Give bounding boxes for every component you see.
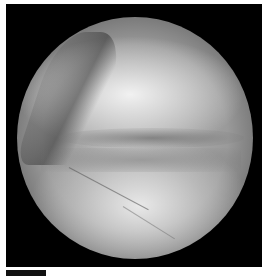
scale-bar: [6, 270, 46, 276]
arthroscopic-circular-view: [17, 17, 253, 259]
surface-line: [69, 167, 149, 210]
surface-line: [123, 206, 176, 239]
arthroscopic-image-frame: [6, 4, 262, 267]
joint-crease: [59, 128, 243, 147]
